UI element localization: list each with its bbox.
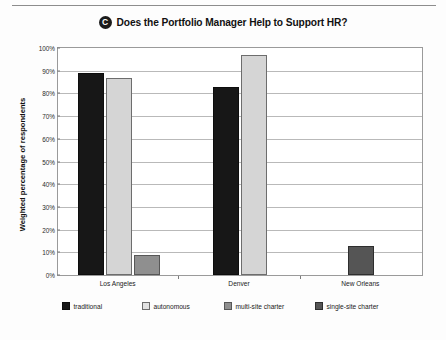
y-axis-tick-mark — [57, 116, 60, 117]
bar-traditional-los-angeles — [78, 73, 104, 275]
y-axis-tick-mark — [57, 229, 60, 230]
legend-swatch-icon — [315, 302, 323, 310]
y-axis-tick-label: 100% — [39, 45, 55, 52]
y-axis-tick-label: 80% — [42, 90, 55, 97]
legend-swatch-icon — [224, 302, 232, 310]
x-axis-tick-mark — [178, 276, 179, 279]
legend-item[interactable]: multi-site charter — [224, 302, 284, 310]
x-axis-tick-label: New Orleans — [341, 280, 379, 287]
plot-area — [57, 47, 423, 276]
y-axis-tick-label: 60% — [42, 135, 55, 142]
x-axis-tick-label: Los Angeles — [100, 280, 136, 287]
y-axis-tick-label: 30% — [42, 203, 55, 210]
y-axis-tick-label: 70% — [42, 113, 55, 120]
y-axis-tick-mark — [57, 206, 60, 207]
chart-title: Does the Portfolio Manager Help to Suppo… — [117, 17, 348, 28]
y-axis-tick-label: 10% — [42, 249, 55, 256]
bar-autonomous-los-angeles — [106, 78, 132, 275]
y-axis-tick-label: 20% — [42, 226, 55, 233]
y-axis-tick-mark — [57, 48, 60, 49]
x-axis-tick-label: Denver — [228, 280, 249, 287]
y-axis-tick-label: 90% — [42, 67, 55, 74]
y-axis-tick-labels: 0%10%20%30%40%50%60%70%80%90%100% — [22, 47, 55, 276]
bar-autonomous-denver — [241, 55, 267, 275]
y-axis-tick-label: 40% — [42, 181, 55, 188]
legend-item[interactable]: single-site charter — [315, 302, 379, 310]
chart-legend: traditionalautonomousmulti-site charters… — [57, 302, 423, 316]
chart-title-block: C Does the Portfolio Manager Help to Sup… — [0, 16, 446, 29]
legend-item-label: multi-site charter — [236, 303, 285, 310]
chart-page: C Does the Portfolio Manager Help to Sup… — [0, 0, 446, 340]
legend-item-label: autonomous — [154, 303, 190, 310]
y-axis-tick-mark — [57, 275, 60, 276]
panel-letter-badge-icon: C — [99, 16, 112, 29]
y-axis-tick-mark — [57, 93, 60, 94]
y-axis-tick-label: 50% — [42, 158, 55, 165]
bar-multi-site-los-angeles — [134, 255, 160, 275]
y-axis-tick-mark — [57, 161, 60, 162]
gridline — [58, 71, 422, 72]
page-top-rule — [12, 5, 436, 6]
bar-traditional-denver — [213, 87, 239, 275]
legend-swatch-icon — [142, 302, 150, 310]
y-axis-tick-label: 0% — [46, 272, 55, 279]
legend-swatch-icon — [62, 302, 70, 310]
y-axis-tick-mark — [57, 252, 60, 253]
x-axis-tick-mark — [300, 276, 301, 279]
y-axis-tick-mark — [57, 138, 60, 139]
legend-item-label: single-site charter — [327, 303, 379, 310]
x-axis-tick-labels: Los AngelesDenverNew Orleans — [57, 280, 423, 294]
bar-single-site-new-orleans — [348, 246, 374, 276]
legend-item[interactable]: autonomous — [142, 302, 190, 310]
legend-item[interactable]: traditional — [62, 302, 102, 310]
y-axis-tick-mark — [57, 184, 60, 185]
legend-item-label: traditional — [74, 303, 103, 310]
y-axis-tick-mark — [57, 70, 60, 71]
